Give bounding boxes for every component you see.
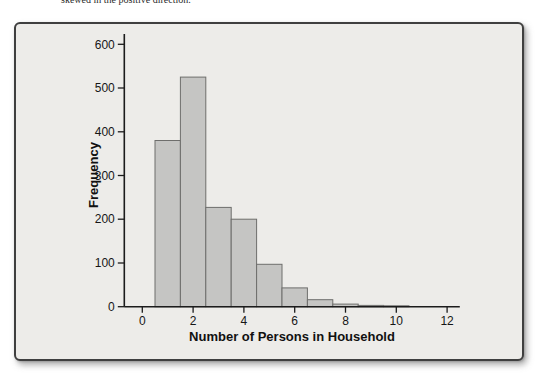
y-axis-tick-label: 200 [95,212,115,226]
y-axis-tick-label: 100 [95,256,115,270]
histogram-bar [180,77,205,307]
x-axis-tick-label: 12 [440,314,454,328]
y-axis-tick-label: 500 [95,81,115,95]
histogram-bar [282,288,307,307]
y-axis-tick-label: 400 [95,125,115,139]
x-axis-tick-label: 8 [342,314,349,328]
y-axis-tick-label: 600 [95,38,115,52]
x-axis-tick-label: 4 [241,314,248,328]
x-axis-title: Number of Persons in Household [189,329,395,344]
histogram-bar [307,300,332,307]
histogram-bar [206,207,231,306]
histogram-bar [155,141,180,307]
x-axis-tick-label: 6 [291,314,298,328]
x-axis-tick-label: 10 [390,314,404,328]
page: skewed in the positive direction. 010020… [0,0,539,376]
histogram-chart: 0100200300400500600024681012 [0,0,539,376]
x-axis-tick-label: 2 [190,314,197,328]
y-axis-title: Frequency [86,142,101,208]
histogram-bar [257,264,282,306]
x-axis-tick-label: 0 [139,314,146,328]
y-axis-tick-label: 0 [108,300,115,314]
histogram-bar [231,219,256,307]
